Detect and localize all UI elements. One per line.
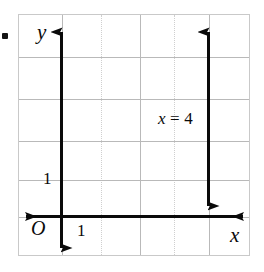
gridline-horizontal-4 <box>19 180 249 181</box>
plot-frame <box>18 14 250 256</box>
gridline-vertical-3 <box>140 15 141 255</box>
gridline-vertical-5 <box>209 15 210 255</box>
gridline-horizontal-3 <box>19 141 249 142</box>
gridline-vertical-2 <box>101 15 102 255</box>
x-axis-tick-label-1: 1 <box>77 222 86 239</box>
math-figure-x-equals-4: y x O 1 1 x=4 <box>0 0 264 272</box>
gridline-horizontal-5 <box>19 217 249 218</box>
gridline-vertical-1 <box>62 15 63 255</box>
gridline-horizontal-2 <box>19 99 249 100</box>
origin-label: O <box>31 218 45 238</box>
equation-operator: = <box>170 109 180 128</box>
y-axis-label: y <box>37 22 46 43</box>
equation-variable: x <box>158 109 166 128</box>
gridline-vertical-4 <box>174 15 175 255</box>
y-axis-tick-label-1: 1 <box>43 170 52 187</box>
equation-label: x=4 <box>158 110 193 127</box>
gridline-horizontal-1 <box>19 57 249 58</box>
equation-value: 4 <box>184 109 193 128</box>
margin-ink-mark <box>2 33 8 39</box>
x-axis-label: x <box>230 225 239 246</box>
